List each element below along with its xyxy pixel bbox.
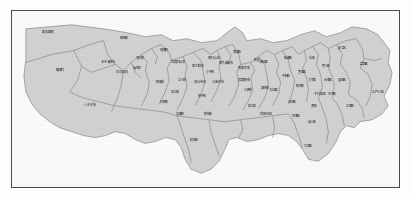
region-label: 立川市 [178, 79, 187, 82]
region-label: 東大和市 [192, 65, 203, 68]
region-label: 渋谷区 [288, 101, 297, 104]
region-label: 中央区 [328, 93, 337, 96]
region-label: 千代田区 [314, 93, 325, 96]
map-plate: .land{fill:#d2d2d2;stroke:#6d6d6d;stroke… [12, 11, 399, 187]
region-label: 昭島市 [156, 81, 165, 84]
region-label: 台東区 [324, 79, 333, 82]
region-label: 日の出町 [116, 71, 127, 74]
region-label: 新宿区 [296, 85, 305, 88]
region-label: 国分寺市 [194, 81, 205, 84]
region-label: 江戸川区 [372, 91, 383, 94]
region-label: 小平市 [206, 71, 215, 74]
region-label: 板橋区 [284, 57, 293, 60]
region-label: 青梅市 [120, 37, 129, 40]
region-label: 羽村市 [136, 57, 145, 60]
region-label: 日野市 [160, 101, 169, 104]
region-label: 西東京市 [238, 67, 249, 70]
region-label: 北区 [309, 57, 315, 60]
region-label: 杉並区 [270, 89, 279, 92]
region-label: あきる野市 [101, 61, 115, 64]
region-label: 狛江市 [248, 105, 257, 108]
region-label: 中野区 [282, 75, 291, 78]
region-label: 武蔵村山市 [171, 61, 185, 64]
map-labels: 奥多摩町青梅市瑞穂町羽村市福生市武蔵村山市東大和市東村山市清瀬市東久留米市西東京… [12, 11, 400, 188]
region-label: 小金井市 [212, 81, 223, 84]
region-label: 三鷹市 [244, 89, 253, 92]
region-label: 調布市 [261, 87, 270, 90]
region-label: 多摩市 [176, 113, 185, 116]
region-label: 足立区 [338, 47, 347, 50]
region-label: 稲城市 [204, 113, 213, 116]
region-label: 東久留米市 [219, 62, 233, 65]
region-label: 文京区 [308, 79, 317, 82]
region-label: 品川区 [308, 121, 317, 124]
region-label: 港区 [311, 105, 317, 108]
region-label: 国立市 [171, 91, 180, 94]
region-label: 府中市 [198, 95, 207, 98]
region-label: 豊島区 [298, 71, 307, 74]
region-label: 江東区 [346, 105, 355, 108]
map-frame: .land{fill:#d2d2d2;stroke:#6d6d6d;stroke… [11, 10, 400, 188]
region-label: 八王子市 [84, 104, 95, 107]
region-label: 練馬区 [260, 61, 269, 64]
page-root: .land{fill:#d2d2d2;stroke:#6d6d6d;stroke… [0, 0, 411, 198]
region-label: 武蔵野市 [238, 79, 249, 82]
region-label: 奥多摩町 [42, 31, 53, 34]
region-label: 世田谷区 [260, 113, 271, 116]
region-label: 福生市 [133, 67, 142, 70]
region-label: 清瀬市 [233, 51, 242, 54]
region-label: 瑞穂町 [160, 49, 169, 52]
region-label: 墨田区 [338, 79, 347, 82]
region-label: 東村山市 [208, 57, 219, 60]
region-label: 町田市 [190, 139, 199, 142]
region-label: 葛飾区 [360, 63, 369, 66]
region-label: 荒川区 [322, 65, 331, 68]
region-label: 大田区 [304, 145, 313, 148]
region-label: 檜原村 [56, 69, 65, 72]
region-label: 目黒区 [292, 115, 301, 118]
